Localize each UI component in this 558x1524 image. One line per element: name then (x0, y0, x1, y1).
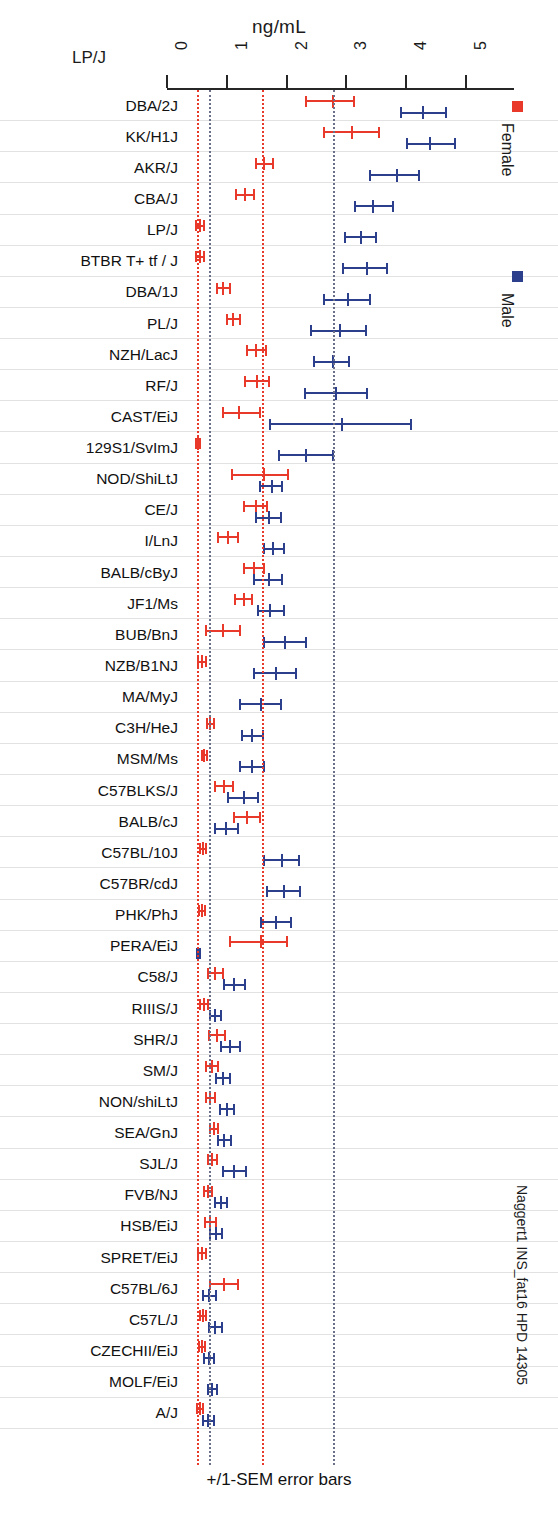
strain-row[interactable]: MA/MyJ (0, 682, 558, 713)
data-point-marker[interactable] (233, 1165, 235, 1178)
strain-row[interactable]: DBA/2J (0, 90, 558, 121)
strain-row[interactable]: A/J (0, 1398, 558, 1429)
data-point-marker[interactable] (396, 169, 398, 182)
data-point-marker[interactable] (211, 1153, 213, 1166)
data-point-marker[interactable] (199, 250, 201, 263)
data-point-marker[interactable] (199, 219, 201, 232)
strain-row[interactable]: CE/J (0, 495, 558, 526)
data-point-marker[interactable] (222, 282, 224, 295)
data-point-marker[interactable] (372, 200, 374, 213)
strain-row[interactable]: NZH/LacJ (0, 339, 558, 370)
data-point-marker[interactable] (275, 916, 277, 929)
strain-row[interactable]: SPRET/EiJ (0, 1242, 558, 1273)
data-point-marker[interactable] (203, 749, 205, 762)
data-point-marker[interactable] (199, 1402, 201, 1415)
strain-row[interactable]: SEA/GnJ (0, 1118, 558, 1149)
strain-row[interactable]: NON/shiLtJ (0, 1086, 558, 1117)
strain-row[interactable]: JF1/Ms (0, 588, 558, 619)
data-point-marker[interactable] (214, 967, 216, 980)
strain-row[interactable]: PHK/PhJ (0, 900, 558, 931)
data-point-marker[interactable] (220, 1196, 222, 1209)
data-point-marker[interactable] (339, 324, 341, 337)
data-point-marker[interactable] (305, 449, 307, 462)
strain-row[interactable]: RF/J (0, 370, 558, 401)
strain-row[interactable]: SHR/J (0, 1024, 558, 1055)
data-point-marker[interactable] (233, 978, 235, 991)
strain-row[interactable]: BALB/cByJ (0, 557, 558, 588)
data-point-marker[interactable] (225, 822, 227, 835)
data-point-marker[interactable] (335, 387, 337, 400)
data-point-marker[interactable] (213, 1122, 215, 1135)
strain-row[interactable]: SJL/J (0, 1149, 558, 1180)
data-point-marker[interactable] (341, 418, 343, 431)
strain-row[interactable]: DBA/1J (0, 277, 558, 308)
strain-row[interactable]: C3H/HeJ (0, 713, 558, 744)
strain-row[interactable]: MOLF/EiJ (0, 1367, 558, 1398)
strain-row[interactable]: BALB/cJ (0, 806, 558, 837)
data-point-marker[interactable] (201, 655, 203, 668)
data-point-marker[interactable] (251, 729, 253, 742)
data-point-marker[interactable] (227, 531, 229, 544)
strain-row[interactable]: HSB/EiJ (0, 1211, 558, 1242)
data-point-marker[interactable] (268, 511, 270, 524)
data-point-marker[interactable] (211, 1383, 213, 1396)
data-point-marker[interactable] (284, 636, 286, 649)
strain-row[interactable]: MSM/Ms (0, 744, 558, 775)
data-point-marker[interactable] (429, 137, 431, 150)
data-point-marker[interactable] (246, 811, 248, 824)
data-point-marker[interactable] (281, 854, 283, 867)
strain-row[interactable]: RIIIS/J (0, 993, 558, 1024)
data-point-marker[interactable] (243, 791, 245, 804)
strain-row[interactable]: C57BL/10J (0, 837, 558, 868)
data-point-marker[interactable] (351, 126, 353, 139)
data-point-marker[interactable] (211, 1060, 213, 1073)
strain-row[interactable]: NZB/B1NJ (0, 650, 558, 681)
strain-row[interactable]: BUB/BnJ (0, 619, 558, 650)
data-point-marker[interactable] (255, 344, 257, 357)
data-point-marker[interactable] (222, 624, 224, 637)
strain-row[interactable]: C58/J (0, 962, 558, 993)
strain-row[interactable]: PL/J (0, 308, 558, 339)
data-point-marker[interactable] (222, 1072, 224, 1085)
data-point-marker[interactable] (232, 313, 234, 326)
data-point-marker[interactable] (255, 500, 257, 513)
data-point-marker[interactable] (347, 293, 349, 306)
strain-row[interactable]: I/LnJ (0, 526, 558, 557)
data-point-marker[interactable] (251, 760, 253, 773)
data-point-marker[interactable] (244, 188, 246, 201)
data-point-marker[interactable] (283, 885, 285, 898)
data-point-marker[interactable] (271, 480, 273, 493)
strain-row[interactable]: FVB/NJ (0, 1180, 558, 1211)
strain-row[interactable]: PERA/EiJ (0, 931, 558, 962)
strain-row[interactable]: 129S1/SvImJ (0, 433, 558, 464)
strain-row[interactable]: CAST/EiJ (0, 401, 558, 432)
data-point-marker[interactable] (214, 1321, 216, 1334)
data-point-marker[interactable] (422, 106, 424, 119)
strain-row[interactable]: SM/J (0, 1055, 558, 1086)
data-point-marker[interactable] (201, 1340, 203, 1353)
strain-row[interactable]: C57BR/cdJ (0, 868, 558, 899)
data-point-marker[interactable] (272, 542, 274, 555)
strain-row[interactable]: NOD/ShiLtJ (0, 464, 558, 495)
data-point-marker[interactable] (202, 1309, 204, 1322)
data-point-marker[interactable] (229, 1040, 231, 1053)
data-point-marker[interactable] (201, 904, 203, 917)
data-point-marker[interactable] (226, 1103, 228, 1116)
strain-row[interactable]: CBA/J (0, 183, 558, 214)
data-point-marker[interactable] (223, 1134, 225, 1147)
data-point-marker[interactable] (201, 1247, 203, 1260)
data-point-marker[interactable] (216, 1029, 218, 1042)
strain-row[interactable]: CZECHII/EiJ (0, 1335, 558, 1366)
data-point-marker[interactable] (203, 998, 205, 1011)
data-point-marker[interactable] (366, 262, 368, 275)
data-point-marker[interactable] (243, 593, 245, 606)
data-point-marker[interactable] (360, 231, 362, 244)
data-point-marker[interactable] (214, 1009, 216, 1022)
data-point-marker[interactable] (256, 375, 258, 388)
data-point-marker[interactable] (223, 780, 225, 793)
data-point-marker[interactable] (223, 1278, 225, 1291)
data-point-marker[interactable] (275, 667, 277, 680)
strain-row[interactable]: AKR/J (0, 152, 558, 183)
strain-row[interactable]: C57BL/6J (0, 1273, 558, 1304)
data-point-marker[interactable] (269, 604, 271, 617)
